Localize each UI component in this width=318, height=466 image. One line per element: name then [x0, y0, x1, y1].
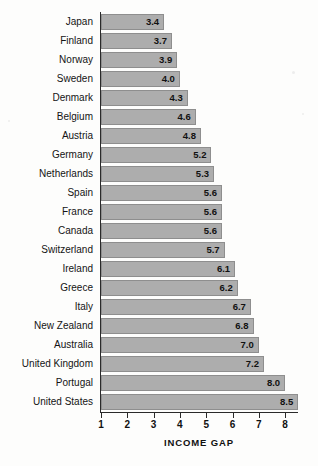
x-axis-tick: [180, 413, 181, 418]
bar-value-label: 3.4: [101, 14, 164, 30]
x-axis-tick: [127, 413, 128, 418]
bar-value-label: 6.7: [101, 299, 251, 315]
x-axis-line: [100, 412, 298, 413]
x-axis-tick: [206, 413, 207, 418]
bar-value-label: 7.2: [101, 356, 264, 372]
y-axis-line: [100, 12, 101, 413]
bar-row: 5.2: [101, 146, 297, 165]
bar-value-label: 4.0: [101, 71, 180, 87]
category-label: United Kingdom: [0, 355, 97, 374]
bar-value-label: 7.0: [101, 337, 259, 353]
bar-value-label: 8.0: [101, 375, 285, 391]
bar-value-label: 5.6: [101, 223, 222, 239]
bar-value-label: 4.8: [101, 128, 201, 144]
category-label: Germany: [0, 146, 97, 165]
category-label: Belgium: [0, 108, 97, 127]
category-label: Netherlands: [0, 165, 97, 184]
bar-row: 6.2: [101, 279, 297, 298]
bar-row: 4.0: [101, 70, 297, 89]
category-label: Switzerland: [0, 241, 97, 260]
bar-row: 3.4: [101, 13, 297, 32]
category-label: New Zealand: [0, 317, 97, 336]
bar-value-label: 5.6: [101, 185, 222, 201]
plot-area: 3.43.73.94.04.34.64.85.25.35.65.65.65.76…: [101, 13, 297, 412]
category-label: Austria: [0, 127, 97, 146]
category-label: Italy: [0, 298, 97, 317]
category-label: Spain: [0, 184, 97, 203]
category-label: Portugal: [0, 374, 97, 393]
x-axis-tick-label: 8: [275, 419, 295, 430]
category-label: Japan: [0, 13, 97, 32]
x-axis-tick: [101, 413, 102, 418]
bar-value-label: 3.7: [101, 33, 172, 49]
category-label: Norway: [0, 51, 97, 70]
bar-row: 3.7: [101, 32, 297, 51]
bar-value-label: 6.1: [101, 261, 235, 277]
category-axis-labels: JapanFinlandNorwaySwedenDenmarkBelgiumAu…: [0, 13, 97, 412]
category-label: Denmark: [0, 89, 97, 108]
category-label: United States: [0, 393, 97, 412]
bar-value-label: 5.6: [101, 204, 222, 220]
bar-value-label: 4.6: [101, 109, 196, 125]
x-axis-tick: [285, 413, 286, 418]
bar-value-label: 5.2: [101, 147, 211, 163]
x-axis-tick-label: 3: [144, 419, 164, 430]
bar-value-label: 3.9: [101, 52, 177, 68]
category-label: Canada: [0, 222, 97, 241]
bar-row: 5.6: [101, 184, 297, 203]
bar-row: 4.8: [101, 127, 297, 146]
bar-value-label: 5.3: [101, 166, 214, 182]
x-axis-tick: [259, 413, 260, 418]
scan-speckle: [302, 113, 304, 115]
category-label: Greece: [0, 279, 97, 298]
bar-value-label: 6.8: [101, 318, 254, 334]
category-label: Ireland: [0, 260, 97, 279]
bar-row: 5.7: [101, 241, 297, 260]
bar-value-label: 4.3: [101, 90, 188, 106]
bar-row: 5.6: [101, 222, 297, 241]
x-axis-tick-label: 4: [170, 419, 190, 430]
bar-row: 7.2: [101, 355, 297, 374]
bar-row: 3.9: [101, 51, 297, 70]
bar-row: 8.5: [101, 393, 297, 412]
bar-row: 6.8: [101, 317, 297, 336]
bar-row: 6.1: [101, 260, 297, 279]
bar-row: 4.3: [101, 89, 297, 108]
bar-row: 8.0: [101, 374, 297, 393]
category-label: Australia: [0, 336, 97, 355]
x-axis-tick: [233, 413, 234, 418]
bar-row: 5.6: [101, 203, 297, 222]
x-axis-tick: [154, 413, 155, 418]
category-label: Sweden: [0, 70, 97, 89]
bar-row: 4.6: [101, 108, 297, 127]
bar-row: 5.3: [101, 165, 297, 184]
x-axis-tick-label: 7: [249, 419, 269, 430]
x-axis-tick-label: 2: [117, 419, 137, 430]
bar-value-label: 5.7: [101, 242, 225, 258]
bar-value-label: 8.5: [101, 394, 298, 410]
x-axis-tick-label: 6: [223, 419, 243, 430]
income-gap-bar-chart: JapanFinlandNorwaySwedenDenmarkBelgiumAu…: [0, 0, 318, 466]
x-axis-title: INCOME GAP: [101, 437, 297, 448]
bar-row: 7.0: [101, 336, 297, 355]
bar-rows: 3.43.73.94.04.34.64.85.25.35.65.65.65.76…: [101, 13, 297, 412]
category-label: Finland: [0, 32, 97, 51]
bar-row: 6.7: [101, 298, 297, 317]
x-axis-tick-label: 5: [196, 419, 216, 430]
bar-value-label: 6.2: [101, 280, 238, 296]
x-axis-tick-label: 1: [91, 419, 111, 430]
category-label: France: [0, 203, 97, 222]
